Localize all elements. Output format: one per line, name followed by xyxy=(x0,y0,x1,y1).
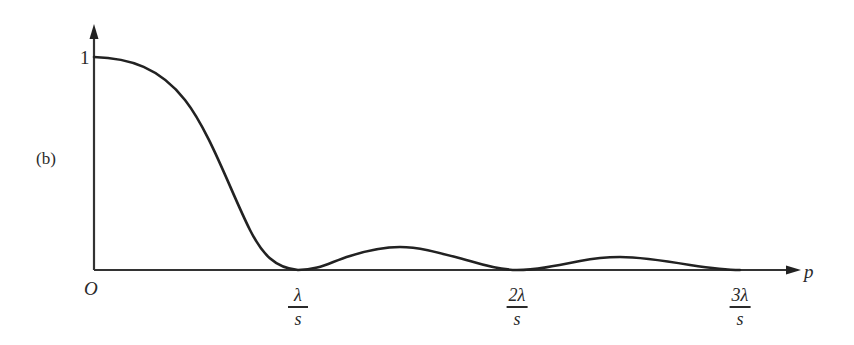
tick-denominator: s xyxy=(513,308,520,328)
x-axis-arrow-icon xyxy=(786,266,801,275)
x-tick-2lambda-over-s: 2λ s xyxy=(507,286,528,328)
tick-denominator: s xyxy=(294,308,301,328)
tick-numerator: λ xyxy=(292,286,304,306)
tick-numerator: 2λ xyxy=(507,286,528,306)
x-tick-lambda-over-s: λ s xyxy=(288,286,308,328)
y-axis-arrow-icon xyxy=(90,24,99,39)
diffraction-plot xyxy=(0,0,854,345)
tick-numerator: 3λ xyxy=(730,286,751,306)
y-axis xyxy=(90,24,99,270)
intensity-curve xyxy=(94,57,740,270)
x-axis-label: p xyxy=(804,262,814,281)
panel-label: (b) xyxy=(36,150,56,167)
x-tick-3lambda-over-s: 3λ s xyxy=(730,286,751,328)
y-tick-label-1: 1 xyxy=(80,48,90,67)
tick-denominator: s xyxy=(736,308,743,328)
origin-label: O xyxy=(84,279,98,298)
